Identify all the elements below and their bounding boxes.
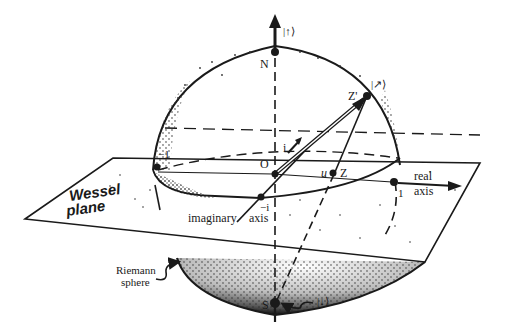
- z-label: Z: [340, 166, 347, 180]
- minus-one-label: −1: [158, 148, 170, 160]
- imaginary-axis-label-2: axis: [249, 211, 269, 225]
- riemann-sphere-diagram: |↑⟩ N |↗⟩ Z' u Z O i −i 1 −1 real axis i…: [0, 0, 507, 329]
- one-point: [390, 178, 398, 186]
- real-axis-label-2: axis: [414, 184, 434, 198]
- z-prime-state-label: |↗⟩: [371, 78, 386, 90]
- riemann-sphere-label-1: Riemann: [116, 264, 156, 276]
- z-prime-label: Z': [348, 89, 358, 103]
- north-pole-label: N: [260, 57, 269, 71]
- i-label: i: [283, 141, 287, 155]
- riemann-pointer: [156, 262, 178, 280]
- u-label: u: [321, 166, 327, 180]
- minus-one-point: [154, 164, 161, 171]
- real-axis-label-1: real: [414, 169, 433, 183]
- north-state-label: |↑⟩: [283, 25, 295, 37]
- origin-label: O: [260, 157, 269, 171]
- south-state-label: |↓⟩: [317, 295, 329, 307]
- origin-point: [272, 171, 279, 178]
- imaginary-axis-label: imaginary: [188, 211, 237, 225]
- riemann-sphere-label-2: sphere: [121, 276, 150, 288]
- one-label: 1: [398, 187, 404, 199]
- z-point: [330, 170, 337, 177]
- south-pole-label: S: [262, 298, 269, 312]
